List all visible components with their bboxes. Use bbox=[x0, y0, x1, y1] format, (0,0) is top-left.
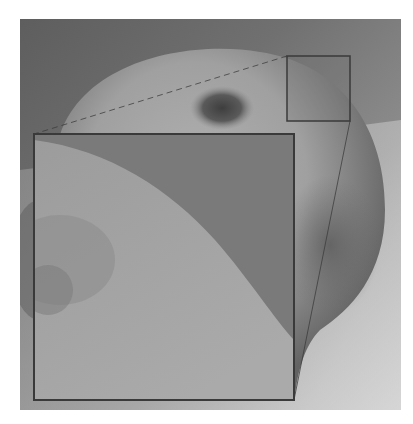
stem-cavity bbox=[190, 86, 254, 130]
apple-zoom-figure bbox=[0, 0, 413, 424]
zoom-inset bbox=[5, 134, 294, 400]
zoom-source-box bbox=[287, 56, 350, 121]
